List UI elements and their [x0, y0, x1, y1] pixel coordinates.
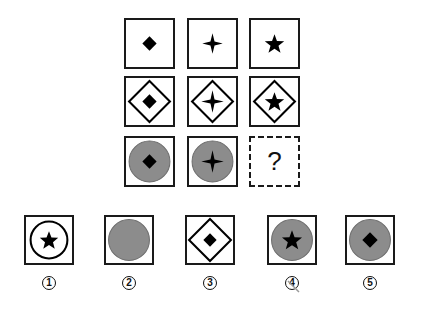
- four-point-star-in-gray-circle-icon: [189, 138, 236, 185]
- grid-cell-r1-c2: [187, 18, 238, 69]
- star-in-diamond-icon: [251, 78, 298, 125]
- star-in-gray-circle-icon: [269, 217, 315, 263]
- question-mark: ?: [251, 138, 298, 185]
- option-1-label: 1: [42, 276, 56, 290]
- option-1[interactable]: [24, 215, 74, 265]
- four-point-star-in-diamond-icon: [189, 78, 236, 125]
- missing-cell: ?: [249, 136, 300, 187]
- option-5[interactable]: [345, 215, 395, 265]
- grid-cell-r2-c2: [187, 76, 238, 127]
- gray-circle-icon: [106, 217, 152, 263]
- option-2[interactable]: [104, 215, 154, 265]
- grid-cell-r1-c1: [124, 18, 175, 69]
- star-icon: [251, 20, 298, 67]
- option-3-label: 3: [203, 276, 217, 290]
- grid-cell-r2-c1: [124, 76, 175, 127]
- option-5-label: 5: [363, 276, 377, 290]
- mouse-cursor-icon: [287, 280, 301, 294]
- diamond-in-gray-circle-icon: [347, 217, 393, 263]
- diamond-icon: [126, 20, 173, 67]
- diamond-in-gray-circle-icon: [126, 138, 173, 185]
- grid-cell-r2-c3: [249, 76, 300, 127]
- four-point-star-icon: [189, 20, 236, 67]
- grid-cell-r1-c3: [249, 18, 300, 69]
- option-2-label: 2: [122, 276, 136, 290]
- option-3[interactable]: [185, 215, 235, 265]
- option-4[interactable]: [267, 215, 317, 265]
- diamond-in-diamond-icon: [187, 217, 233, 263]
- star-in-circle-icon: [26, 217, 72, 263]
- grid-cell-r3-c1: [124, 136, 175, 187]
- grid-cell-r3-c2: [187, 136, 238, 187]
- diamond-in-diamond-icon: [126, 78, 173, 125]
